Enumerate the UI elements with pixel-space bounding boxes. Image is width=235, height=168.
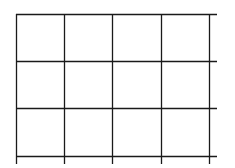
grid-diagram xyxy=(0,0,235,168)
vertical-grid-lines xyxy=(17,14,210,164)
horizontal-grid-lines xyxy=(16,15,217,157)
